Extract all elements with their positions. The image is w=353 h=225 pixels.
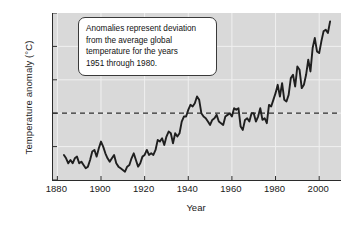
callout-line-1: Anomalies represent deviation: [86, 23, 210, 35]
x-axis-title: Year: [52, 202, 340, 213]
x-tick-label: 1920: [122, 184, 166, 194]
x-tick-label: 1980: [253, 184, 297, 194]
y-axis-title: Temperature anomaly (°C): [23, 18, 34, 178]
callout-line-3: temperature for the years: [86, 46, 210, 58]
temperature-anomaly-chart: Temperature anomaly (°C) Year 0.60.40.20…: [0, 0, 353, 225]
callout-line-4: 1951 through 1980.: [86, 58, 210, 70]
callout-line-2: from the average global: [86, 35, 210, 47]
x-tick-label: 1940: [165, 184, 209, 194]
anomaly-definition-callout: Anomalies represent deviation from the a…: [78, 17, 217, 76]
x-tick-label: 1880: [34, 184, 78, 194]
x-tick-label: 1960: [209, 184, 253, 194]
x-tick-label: 1900: [78, 184, 122, 194]
x-tick-label: 2000: [296, 184, 340, 194]
